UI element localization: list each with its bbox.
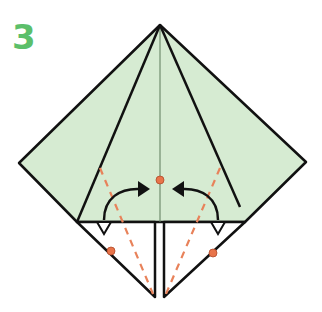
origami-diagram <box>0 0 322 312</box>
left-edge-dot <box>107 247 115 255</box>
right-edge-dot <box>209 249 217 257</box>
right-lower-flap <box>164 222 245 297</box>
center-dot <box>156 176 164 184</box>
left-lower-flap <box>77 222 155 297</box>
paper-upper-layer <box>19 25 306 222</box>
